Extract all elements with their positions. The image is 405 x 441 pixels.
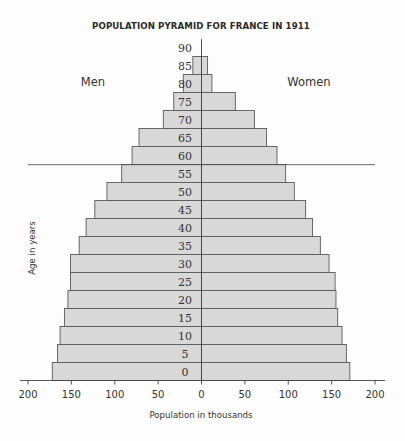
x-tick-label: 50 bbox=[239, 389, 252, 400]
bar-women-age-45 bbox=[202, 201, 306, 219]
women-label: Women bbox=[287, 75, 330, 89]
x-tick-label: 150 bbox=[62, 389, 81, 400]
bar-women-age-5 bbox=[202, 345, 347, 363]
bar-women-age-0 bbox=[202, 363, 350, 381]
age-label-90: 90 bbox=[178, 42, 192, 55]
age-label-15: 15 bbox=[178, 312, 192, 325]
age-label-65: 65 bbox=[178, 132, 192, 145]
age-label-35: 35 bbox=[178, 240, 192, 253]
y-axis-title: Age in years bbox=[27, 221, 37, 275]
bar-women-age-30 bbox=[202, 255, 330, 273]
x-tick-label: 150 bbox=[322, 389, 341, 400]
bar-women-age-50 bbox=[202, 183, 295, 201]
age-label-80: 80 bbox=[178, 78, 192, 91]
age-label-0: 0 bbox=[182, 366, 189, 379]
age-label-60: 60 bbox=[178, 150, 192, 163]
bar-women-age-25 bbox=[202, 273, 336, 291]
chart-title: POPULATION PYRAMID FOR FRANCE IN 1911 bbox=[92, 21, 310, 31]
x-ticks-group: 20015010050050100150200 bbox=[18, 381, 384, 400]
age-label-40: 40 bbox=[178, 222, 192, 235]
bar-women-age-35 bbox=[202, 237, 321, 255]
age-label-70: 70 bbox=[178, 114, 192, 127]
bar-women-age-80 bbox=[202, 75, 212, 93]
age-label-10: 10 bbox=[178, 330, 192, 343]
bar-men-age-85 bbox=[193, 57, 202, 75]
age-label-25: 25 bbox=[178, 276, 192, 289]
population-pyramid-chart: POPULATION PYRAMID FOR FRANCE IN 1911 Me… bbox=[0, 0, 405, 441]
age-label-45: 45 bbox=[178, 204, 192, 217]
men-label: Men bbox=[81, 75, 105, 89]
x-tick-label: 50 bbox=[152, 389, 165, 400]
bar-women-age-55 bbox=[202, 165, 286, 183]
age-label-30: 30 bbox=[178, 258, 192, 271]
x-tick-label: 100 bbox=[279, 389, 298, 400]
bar-men-age-65 bbox=[139, 129, 201, 147]
age-label-20: 20 bbox=[178, 294, 192, 307]
bar-women-age-75 bbox=[202, 93, 236, 111]
bar-women-age-85 bbox=[202, 57, 208, 75]
bar-men-age-0 bbox=[52, 363, 201, 381]
bar-men-age-5 bbox=[57, 345, 201, 363]
age-label-50: 50 bbox=[178, 186, 192, 199]
age-label-85: 85 bbox=[178, 60, 192, 73]
age-label-75: 75 bbox=[178, 96, 192, 109]
age-label-55: 55 bbox=[178, 168, 192, 181]
bar-women-age-15 bbox=[202, 309, 338, 327]
bar-women-age-60 bbox=[202, 147, 277, 165]
x-tick-label: 100 bbox=[105, 389, 124, 400]
x-tick-label: 200 bbox=[365, 389, 384, 400]
bar-women-age-20 bbox=[202, 291, 336, 309]
x-tick-label: 200 bbox=[18, 389, 37, 400]
age-label-5: 5 bbox=[182, 348, 189, 361]
x-axis-title: Population in thousands bbox=[149, 410, 253, 420]
bar-women-age-40 bbox=[202, 219, 313, 237]
x-tick-label: 0 bbox=[198, 389, 204, 400]
bar-women-age-70 bbox=[202, 111, 255, 129]
bar-women-age-10 bbox=[202, 327, 343, 345]
bar-women-age-65 bbox=[202, 129, 267, 147]
